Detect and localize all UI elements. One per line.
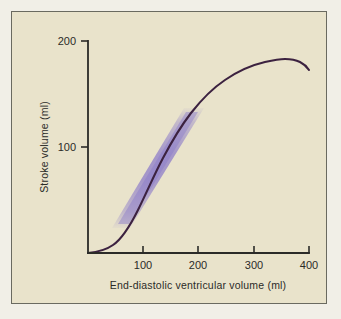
x-tick-label-200: 200 — [189, 259, 207, 271]
x-tick-label-400: 400 — [300, 259, 318, 271]
x-axis-title: End-diastolic ventricular volume (ml) — [110, 279, 287, 291]
stroke-volume-chart: 200 100 100 200 300 400 End-diastolic ve… — [12, 12, 326, 303]
x-tick-label-100: 100 — [134, 259, 152, 271]
y-axis-title: Stroke volume (ml) — [38, 101, 50, 193]
y-tick-label-200: 200 — [58, 35, 76, 47]
x-tick-label-300: 300 — [245, 259, 263, 271]
y-tick-label-100: 100 — [58, 141, 76, 153]
figure-root: 200 100 100 200 300 400 End-diastolic ve… — [0, 0, 341, 319]
chart-panel: 200 100 100 200 300 400 End-diastolic ve… — [11, 11, 327, 304]
